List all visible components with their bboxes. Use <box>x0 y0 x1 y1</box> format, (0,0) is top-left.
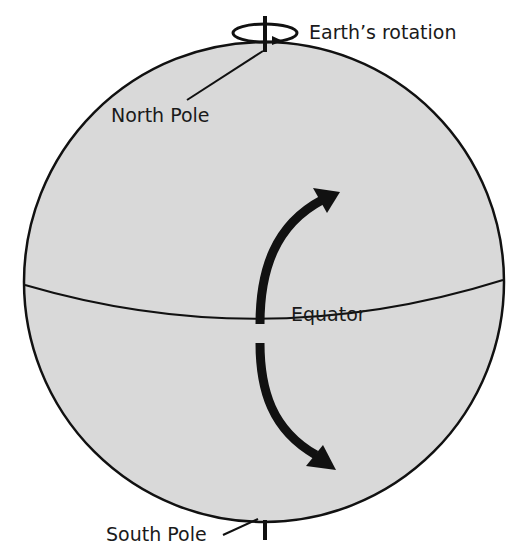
equator-label: Equator <box>291 303 366 325</box>
earths-rotation-label: Earth’s rotation <box>309 21 456 43</box>
south-pole-label: South Pole <box>106 523 207 545</box>
earth-rotation-diagram: Earth’s rotation North Pole Equator Sout… <box>0 0 511 559</box>
north-pole-label: North Pole <box>111 104 210 126</box>
